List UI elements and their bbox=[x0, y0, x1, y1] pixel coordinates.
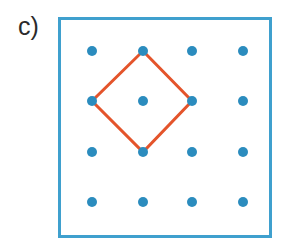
peg-dot[interactable] bbox=[238, 96, 248, 106]
peg-dot[interactable] bbox=[187, 197, 197, 207]
figure-panel: c) bbox=[0, 0, 290, 248]
peg-dot[interactable] bbox=[138, 46, 148, 56]
peg-dot[interactable] bbox=[87, 96, 97, 106]
peg-dot[interactable] bbox=[87, 147, 97, 157]
peg-dot[interactable] bbox=[238, 197, 248, 207]
peg-dot[interactable] bbox=[87, 197, 97, 207]
geoboard-canvas bbox=[0, 0, 290, 248]
peg-dot[interactable] bbox=[187, 96, 197, 106]
peg-dot[interactable] bbox=[138, 147, 148, 157]
peg-dot[interactable] bbox=[238, 46, 248, 56]
peg-dot[interactable] bbox=[238, 147, 248, 157]
peg-dot[interactable] bbox=[138, 197, 148, 207]
peg-dot[interactable] bbox=[187, 147, 197, 157]
peg-dot[interactable] bbox=[138, 96, 148, 106]
peg-dot[interactable] bbox=[187, 46, 197, 56]
peg-dot[interactable] bbox=[87, 46, 97, 56]
